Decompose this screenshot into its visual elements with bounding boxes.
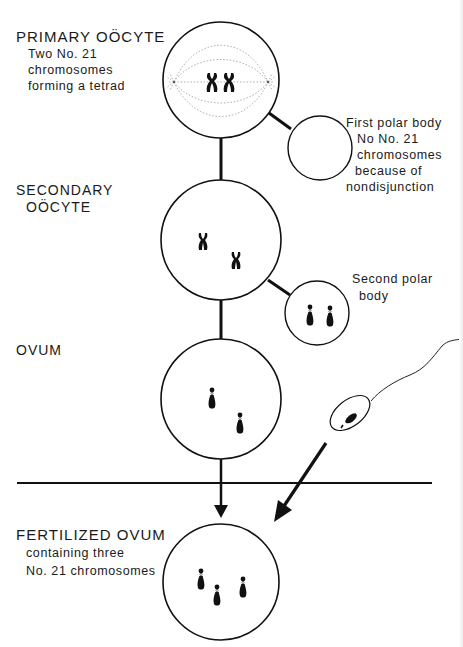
second-polar-body-desc-line: Second polar: [352, 271, 433, 287]
primary-oocyte-desc-line: forming a tetrad: [28, 78, 125, 94]
second-polar-body-cell: [285, 281, 349, 345]
arrowhead-ovum-to-fertilized: [214, 505, 228, 518]
fertilized-ovum-cell: [163, 524, 279, 640]
sperm-tail: [371, 339, 463, 401]
secondary-oocyte-cell: [161, 180, 281, 300]
first-polar-body-desc-line: First polar body: [346, 115, 442, 131]
primary-oocyte-cell: [163, 22, 279, 138]
first-polar-body-desc-line: nondisjunction: [346, 179, 434, 195]
first-polar-body-cell: [288, 116, 352, 180]
connector-primary-to-first-polar: [269, 113, 291, 129]
first-polar-body-desc-line: chromosomes: [357, 147, 442, 163]
first-polar-body-desc-line: No No. 21: [357, 131, 419, 147]
ovum-title: OVUM: [16, 342, 62, 358]
ovum-cell: [161, 339, 281, 459]
connector-secondary-to-second-polar: [268, 280, 290, 295]
fertilized-ovum-title: FERTILIZED OVUM: [16, 526, 166, 543]
fertilized-ovum-desc-line: No. 21 chromosomes: [26, 563, 156, 579]
page-edge-shadow: [459, 0, 463, 647]
sperm-cell: [324, 339, 463, 437]
sperm-arrow-shaft: [284, 443, 326, 506]
primary-oocyte-desc-line: Two No. 21: [28, 46, 97, 62]
sperm-arrow-head: [274, 500, 292, 522]
fertilized-ovum-desc-line: containing three: [26, 545, 125, 561]
secondary-oocyte-title-line: SECONDARY: [16, 182, 113, 198]
secondary-oocyte-title-line: OÖCYTE: [26, 199, 91, 215]
primary-oocyte-title: PRIMARY OÖCYTE: [16, 28, 165, 45]
second-polar-body-desc-line: body: [359, 288, 389, 304]
first-polar-body-desc-line: because of: [355, 163, 422, 179]
primary-oocyte-desc-line: chromosomes: [28, 62, 113, 78]
